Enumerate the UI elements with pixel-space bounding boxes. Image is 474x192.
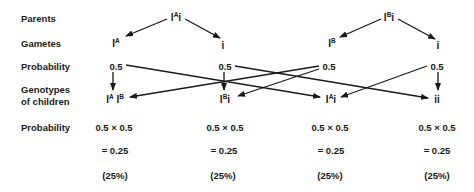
gamete-probability-4: 0.5 xyxy=(430,61,443,72)
gamete-probability-3: 0.5 xyxy=(322,61,335,72)
child-result-2: = 0.25 xyxy=(211,145,238,156)
child-percent-3: (25%) xyxy=(317,170,342,181)
child-product-4: 0.5 × 0.5 xyxy=(418,122,455,133)
child-product-1: 0.5 × 0.5 xyxy=(95,122,132,133)
gamete-2: i xyxy=(222,40,225,51)
gamete-4: i xyxy=(437,40,440,51)
child-product-3: 0.5 × 0.5 xyxy=(311,122,348,133)
child-genotype-1: IA IB xyxy=(106,94,124,105)
child-genotype-3: IAi xyxy=(326,94,336,105)
gamete-1: IA xyxy=(112,38,119,49)
child-genotype-2: IBi xyxy=(220,94,230,105)
child-percent-2: (25%) xyxy=(210,170,235,181)
child-percent-4: (25%) xyxy=(424,170,449,181)
child-result-4: = 0.25 xyxy=(424,145,451,156)
parent-1-genotype: IAi xyxy=(171,12,181,23)
gamete-probability-1: 0.5 xyxy=(109,61,122,72)
child-result-3: = 0.25 xyxy=(318,145,345,156)
child-product-2: 0.5 × 0.5 xyxy=(206,122,243,133)
gamete-3: IB xyxy=(328,38,335,49)
cross-arrows xyxy=(0,0,474,192)
child-percent-1: (25%) xyxy=(102,170,127,181)
child-result-1: = 0.25 xyxy=(102,145,129,156)
parent-2-genotype: IBi xyxy=(384,12,394,23)
gamete-probability-2: 0.5 xyxy=(218,61,231,72)
child-genotype-4: ii xyxy=(434,94,440,105)
